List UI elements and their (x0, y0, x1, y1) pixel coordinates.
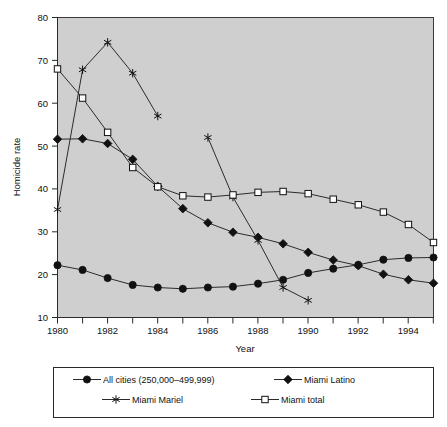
legend-label-miami-mariel: Miami Mariel (132, 395, 183, 405)
data-point (129, 281, 136, 288)
legend-label-all-cities-250-000-499-999: All cities (250,000–499,999) (103, 375, 215, 385)
data-point (54, 66, 60, 72)
data-point (255, 189, 261, 195)
data-point (380, 209, 386, 215)
x-tick-label-1992: 1992 (348, 325, 369, 336)
y-tick-label-80: 80 (37, 12, 48, 23)
y-tick-label-50: 50 (37, 141, 48, 152)
data-point (154, 284, 161, 291)
data-point (305, 190, 311, 196)
data-point (130, 164, 136, 170)
data-point (230, 192, 236, 198)
x-tick-label-1994: 1994 (398, 325, 419, 336)
x-axis-ticks (58, 318, 434, 324)
x-tick-label-1980: 1980 (47, 325, 68, 336)
legend-marker-all-cities-250-000-499-999 (83, 376, 90, 383)
x-axis-title: Year (235, 343, 254, 354)
y-tick-label-70: 70 (37, 55, 48, 66)
x-tick-label-1988: 1988 (247, 325, 268, 336)
data-point (179, 285, 186, 292)
data-point (405, 254, 412, 261)
data-point (180, 193, 186, 199)
legend-label-miami-total: Miami total (281, 395, 325, 405)
x-tick-label-1986: 1986 (197, 325, 218, 336)
data-point (330, 196, 336, 202)
data-point (79, 95, 85, 101)
legend-marker-miami-total (262, 396, 268, 402)
data-point (405, 221, 411, 227)
x-tick-label-1982: 1982 (97, 325, 118, 336)
data-point (305, 269, 312, 276)
y-tick-label-40: 40 (37, 183, 48, 194)
homicide-rate-line-chart: 80 70 60 50 40 30 20 10 Homicide rate (0, 0, 447, 427)
y-tick-label-10: 10 (37, 312, 48, 323)
legend-label-miami-latino: Miami Latino (304, 375, 355, 385)
y-tick-label-20: 20 (37, 269, 48, 280)
data-point (204, 284, 211, 291)
data-point (254, 280, 261, 287)
data-point (380, 256, 387, 263)
data-point (430, 239, 436, 245)
x-tick-label-1984: 1984 (147, 325, 168, 336)
data-point (430, 254, 437, 261)
y-tick-label-30: 30 (37, 226, 48, 237)
data-point (104, 274, 111, 281)
y-axis-title: Homicide rate (11, 138, 22, 197)
data-point (280, 188, 286, 194)
data-point (229, 283, 236, 290)
y-tick-label-60: 60 (37, 98, 48, 109)
data-point (205, 194, 211, 200)
data-point (79, 266, 86, 273)
data-point (330, 265, 337, 272)
data-point (54, 262, 61, 269)
data-point (104, 129, 110, 135)
x-tick-label-1990: 1990 (297, 325, 318, 336)
data-point (355, 202, 361, 208)
data-point (155, 184, 161, 190)
y-axis-ticks (52, 18, 58, 318)
